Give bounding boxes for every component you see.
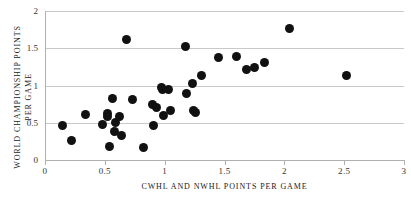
y-tick-labels: 00.511.52 [0, 0, 411, 198]
y-axis-title: WORLD CHAMPIONSHIP POINTS PER GAME [12, 22, 34, 172]
x-axis-title: CWHL AND NWHL POINTS PER GAME [45, 182, 404, 191]
y-tick-label: 2 [22, 6, 38, 16]
scatter-chart: 00.511.522.53 00.511.52 CWHL AND NWHL PO… [0, 0, 411, 198]
